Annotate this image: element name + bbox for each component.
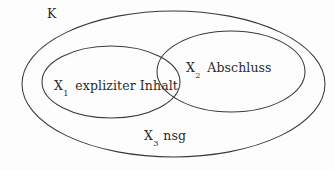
- label-set-x1: X1expliziter Inhalt: [54, 77, 178, 95]
- label-set-x1-subscript: 1: [63, 88, 68, 98]
- label-set-x2: X2Abschluss: [186, 59, 272, 77]
- label-set-x2-text: Abschluss: [207, 60, 271, 75]
- label-set-x2-subscript: 2: [195, 70, 200, 80]
- label-set-x3-text: nsg: [163, 128, 186, 143]
- label-universe-k-text: K: [47, 6, 56, 21]
- label-universe-k: K: [47, 8, 56, 21]
- label-set-x1-text: expliziter Inhalt: [75, 78, 178, 93]
- label-set-x2-symbol: X: [186, 60, 195, 75]
- venn-diagram-figure: K X1expliziter Inhalt X2Abschluss X3nsg: [0, 0, 335, 171]
- label-set-x3: X3nsg: [144, 127, 186, 145]
- label-set-x3-subscript: 3: [153, 138, 158, 148]
- label-set-x3-symbol: X: [144, 128, 153, 143]
- label-set-x1-symbol: X: [54, 78, 63, 93]
